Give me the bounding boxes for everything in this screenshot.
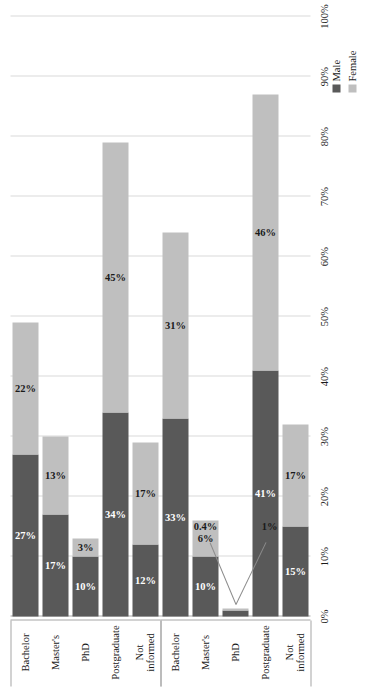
bar-segment-male: 34% (102, 412, 128, 616)
bar-value-label: 34% (105, 509, 126, 520)
bar-row: 12%17% (132, 16, 158, 616)
bar-segment-male: 12% (132, 544, 158, 616)
axis-tick-label: 40% (318, 366, 329, 385)
category-label: Master's (199, 620, 210, 684)
bar-row: 34%45% (102, 16, 128, 616)
category-label: Bachelor (169, 620, 180, 684)
bar-segment-male: 27% (12, 454, 38, 616)
bar-segment-female: 22% (12, 322, 38, 454)
legend-swatch-female (348, 84, 356, 92)
group-bracket-tick (10, 620, 11, 686)
category-label: Not informed (134, 620, 156, 684)
callout-label-male: 1% (261, 520, 277, 531)
group-bracket (10, 619, 160, 620)
bar-segment-male: 17% (42, 514, 68, 616)
axis-tick-labels: 0%10%20%30%40%50%60%70%80%90%100% (318, 16, 358, 616)
legend-label: Female (346, 50, 357, 81)
category-label: Not informed (284, 620, 306, 684)
bar-value-label: 31% (165, 320, 186, 331)
bar-row: 10%3% (72, 16, 98, 616)
axis-tick-label: 80% (318, 126, 329, 145)
bar-segment-female: 31% (162, 232, 188, 418)
chart-canvas: 27%22%17%13%10%3%34%45%12%17%33%31%10%6%… (0, 0, 377, 688)
bar-segment-male: 33% (162, 418, 188, 616)
bar-segment-female: 3% (72, 538, 98, 556)
bar-segment-male (222, 610, 248, 616)
callout-label-female: 0.4% (193, 520, 217, 531)
axis-tick-label: 70% (318, 186, 329, 205)
bar-value-label: 3% (77, 542, 93, 553)
category-label: Master's (49, 620, 60, 684)
axis-tick-label: 60% (318, 246, 329, 265)
axis-tick-label: 90% (318, 66, 329, 85)
axis-tick-label: 50% (318, 306, 329, 325)
bar-segment-female (222, 608, 248, 610)
axis-tick-label: 100% (318, 4, 329, 29)
axis-tick-label: 0% (318, 609, 329, 623)
bar-row: 27%22% (12, 16, 38, 616)
bar-segment-female: 17% (132, 442, 158, 544)
bar-segment-female: 13% (42, 436, 68, 514)
bar-value-label: 15% (285, 566, 306, 577)
legend-item-female[interactable]: Female (346, 50, 357, 92)
legend-label: Male (330, 59, 341, 81)
legend-swatch-male (332, 84, 340, 92)
bar-segment-female: 46% (252, 94, 278, 370)
category-label: PhD (79, 620, 90, 684)
bar-segment-male: 10% (192, 556, 218, 616)
chart-figure: 27%22%17%13%10%3%34%45%12%17%33%31%10%6%… (0, 0, 377, 688)
bar-value-label: 22% (15, 383, 36, 394)
category-label: Bachelor (19, 620, 30, 684)
bar-segment-male: 10% (72, 556, 98, 616)
category-label: Postgraduate (259, 620, 270, 684)
bar-segment-male: 15% (282, 526, 308, 616)
bar-segment-male: 41% (252, 370, 278, 616)
axis-tick-label: 30% (318, 426, 329, 445)
category-label: Postgraduate (109, 620, 120, 684)
bar-value-label: 17% (45, 560, 66, 571)
bar-value-label: 33% (165, 512, 186, 523)
bar-row: 15%17% (282, 16, 308, 616)
category-label: PhD (229, 620, 240, 684)
axis-tick-label: 20% (318, 486, 329, 505)
group-bracket-tick (160, 620, 161, 686)
bar-row (222, 16, 248, 616)
legend-item-male[interactable]: Male (330, 59, 341, 92)
bar-value-label: 13% (45, 470, 66, 481)
bar-value-label: 10% (195, 581, 216, 592)
bar-value-label: 45% (105, 272, 126, 283)
bar-value-label: 27% (15, 530, 36, 541)
group-bracket (160, 619, 310, 620)
bar-segment-female: 17% (282, 424, 308, 526)
bar-value-label: 41% (255, 488, 276, 499)
bar-row: 17%13% (42, 16, 68, 616)
bar-row: 33%31% (162, 16, 188, 616)
bar-value-label: 17% (285, 470, 306, 481)
bar-value-label: 10% (75, 581, 96, 592)
bar-value-label: 12% (135, 575, 156, 586)
bar-value-label: 17% (135, 488, 156, 499)
group-bracket-tick (310, 620, 311, 686)
bar-value-label: 46% (255, 227, 276, 238)
axis-tick-label: 10% (318, 546, 329, 565)
bar-segment-female: 45% (102, 142, 128, 412)
